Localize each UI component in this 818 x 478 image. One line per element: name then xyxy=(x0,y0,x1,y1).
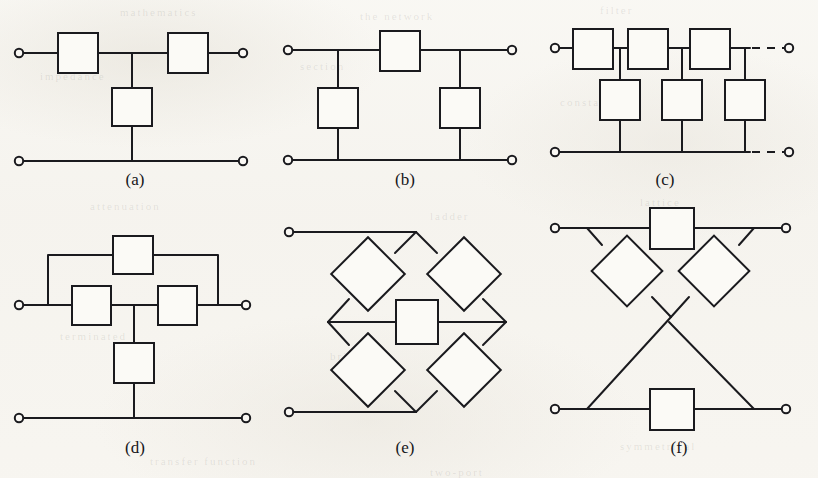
cell-label-b-text: (b) xyxy=(395,170,415,189)
figure-page: mathematics the network filter impedance… xyxy=(0,0,818,478)
diagram-cell-f: (f) xyxy=(540,195,818,478)
wire-e-ll-inner xyxy=(395,391,416,412)
shunt-box-1 xyxy=(600,80,640,120)
cell-label-f-text: (f) xyxy=(671,438,688,457)
schematic-d xyxy=(0,195,270,440)
cell-label-e: (e) xyxy=(270,438,540,458)
diagram-cell-e: (e) xyxy=(270,195,540,478)
terminal-output-bottom[interactable] xyxy=(782,405,790,413)
diagram-cell-d: (d) xyxy=(0,195,270,478)
wire-e-lr-inner xyxy=(416,391,437,412)
terminal-output-bottom[interactable] xyxy=(239,157,247,165)
series-box-bottom xyxy=(650,389,694,430)
terminal-output-bottom[interactable] xyxy=(785,148,793,156)
cell-label-c-text: (c) xyxy=(656,170,675,189)
terminal-input-bottom[interactable] xyxy=(285,408,293,416)
schematic-c xyxy=(540,0,818,172)
wire-f-cross-right-a xyxy=(739,228,754,245)
cell-label-c: (c) xyxy=(540,170,790,190)
wire-e-ul-inner xyxy=(328,299,349,322)
terminal-input-top[interactable] xyxy=(15,49,23,57)
cell-label-d: (d) xyxy=(0,438,270,458)
cell-label-a-text: (a) xyxy=(126,170,145,189)
terminal-input-top[interactable] xyxy=(284,46,292,54)
terminal-input-top[interactable] xyxy=(551,44,559,52)
schematic-a xyxy=(0,0,270,172)
diagram-cell-a: (a) xyxy=(0,0,270,195)
wire-f-cross-left-b xyxy=(652,297,671,317)
terminal-input-bottom[interactable] xyxy=(551,148,559,156)
series-box-top xyxy=(650,208,694,249)
series-box-left xyxy=(72,286,111,325)
shunt-box-left xyxy=(318,88,358,128)
terminal-output-top[interactable] xyxy=(239,49,247,57)
schematic-f xyxy=(540,195,818,440)
wire-e-ur-inner xyxy=(483,299,506,322)
shunt-box-2 xyxy=(662,80,702,120)
terminal-input-bottom[interactable] xyxy=(15,157,23,165)
schematic-e xyxy=(270,195,540,440)
shunt-box xyxy=(112,88,152,126)
cell-label-e-text: (e) xyxy=(396,438,415,457)
terminal-input-top[interactable] xyxy=(285,228,293,236)
terminal-output-top[interactable] xyxy=(782,224,790,232)
lattice-box-lower-left xyxy=(331,333,405,407)
wire-f-cross-left-a xyxy=(587,228,602,245)
wire-e-ll-outer xyxy=(328,322,349,345)
series-box-2 xyxy=(628,29,668,69)
wire-e-ul-outer xyxy=(395,232,416,253)
diagram-cell-b: (b) xyxy=(270,0,540,195)
wire-e-ur-outer xyxy=(416,232,437,253)
shunt-box-3 xyxy=(725,80,765,120)
series-box-1 xyxy=(573,29,613,69)
series-box-3 xyxy=(690,29,730,69)
wire-e-lr-outer xyxy=(483,322,506,345)
series-box xyxy=(380,31,420,71)
terminal-input-bottom[interactable] xyxy=(551,405,559,413)
series-box-left xyxy=(58,33,98,73)
terminal-input-bottom[interactable] xyxy=(15,414,23,422)
series-box-right xyxy=(158,286,197,325)
cell-label-b: (b) xyxy=(270,170,540,190)
series-box-right xyxy=(168,33,208,73)
terminal-input-bottom[interactable] xyxy=(284,156,292,164)
terminal-output-top[interactable] xyxy=(785,44,793,52)
shunt-box xyxy=(114,343,154,383)
terminal-input-top[interactable] xyxy=(15,301,23,309)
diagram-cell-c: (c) xyxy=(540,0,818,195)
cell-label-f: (f) xyxy=(540,438,818,458)
cell-label-a: (a) xyxy=(0,170,270,190)
terminal-output-bottom[interactable] xyxy=(508,156,516,164)
terminal-output-top[interactable] xyxy=(508,46,516,54)
terminal-output-top[interactable] xyxy=(242,301,250,309)
cell-label-d-text: (d) xyxy=(125,438,145,457)
schematic-b xyxy=(270,0,540,172)
shunt-box-right xyxy=(440,88,480,128)
bridging-box-centre xyxy=(396,300,438,344)
lattice-box-upper-left xyxy=(331,237,405,311)
terminal-output-bottom[interactable] xyxy=(242,414,250,422)
bridging-box-top xyxy=(113,236,153,274)
wire-f-cross-right-b xyxy=(671,297,689,317)
terminal-input-top[interactable] xyxy=(551,224,559,232)
